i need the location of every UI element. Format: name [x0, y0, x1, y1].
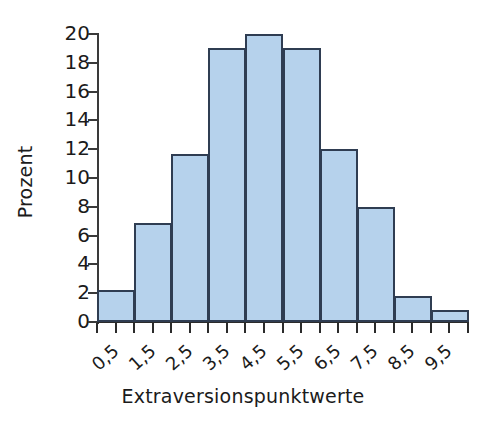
- x-tick-label: 5,5: [261, 341, 307, 385]
- y-tick-label: 10: [52, 167, 90, 187]
- y-tick-label: 16: [52, 81, 90, 101]
- x-tick-mark: [189, 323, 191, 333]
- x-tick-label: 7,5: [335, 341, 381, 385]
- histogram-bar: [431, 310, 469, 322]
- histogram-bar: [283, 48, 321, 322]
- histogram-bar: [320, 149, 358, 322]
- x-tick-label: 4,5: [224, 341, 270, 385]
- y-tick-mark: [88, 292, 97, 294]
- x-tick-mark: [448, 323, 450, 333]
- y-tick-mark: [88, 263, 97, 265]
- x-tick-mark: [115, 323, 117, 333]
- x-tick-mark: [226, 323, 228, 333]
- x-bin-edge-mark: [244, 323, 246, 333]
- y-tick-mark: [88, 119, 97, 121]
- x-bin-edge-mark: [356, 323, 358, 333]
- x-tick-label: 2,5: [150, 341, 196, 385]
- x-bin-edge-mark: [430, 323, 432, 333]
- x-tick-label: 0,5: [75, 341, 121, 385]
- x-tick-label: 6,5: [298, 341, 344, 385]
- y-tick-label: 18: [52, 52, 90, 72]
- histogram-bar: [97, 290, 135, 322]
- y-tick-label: 2: [52, 282, 90, 302]
- x-bin-edge-mark: [393, 323, 395, 333]
- histogram-bar: [245, 34, 283, 322]
- y-tick-mark: [88, 91, 97, 93]
- x-tick-label: 8,5: [372, 341, 418, 385]
- x-tick-mark: [337, 323, 339, 333]
- histogram-bar: [208, 48, 246, 322]
- y-tick-label: 0: [52, 311, 90, 331]
- histogram-bar: [134, 223, 172, 322]
- y-axis-title: Prozent: [14, 112, 40, 252]
- y-tick-mark: [88, 148, 97, 150]
- y-tick-mark: [88, 33, 97, 35]
- x-axis-title: Extraversionspunktwerte: [0, 385, 486, 407]
- x-tick-label: 3,5: [187, 341, 233, 385]
- x-bin-edge-mark: [319, 323, 321, 333]
- y-tick-label: 14: [52, 109, 90, 129]
- plot-area: [97, 34, 468, 322]
- y-tick-mark: [88, 62, 97, 64]
- y-tick-label: 8: [52, 196, 90, 216]
- x-tick-mark: [411, 323, 413, 333]
- y-tick-mark: [88, 206, 97, 208]
- y-tick-label: 20: [52, 23, 90, 43]
- x-bin-edge-mark: [207, 323, 209, 333]
- histogram-bar: [394, 296, 432, 322]
- y-tick-label: 4: [52, 253, 90, 273]
- y-axis-tick-labels: 02468101214161820: [52, 22, 90, 336]
- x-bin-edge-mark: [133, 323, 135, 333]
- x-tick-mark: [263, 323, 265, 333]
- histogram-bar: [171, 154, 209, 322]
- y-tick-label: 12: [52, 138, 90, 158]
- x-bin-edge-mark: [96, 323, 98, 333]
- x-tick-mark: [300, 323, 302, 333]
- x-bin-edge-mark: [467, 323, 469, 333]
- y-tick-label: 6: [52, 225, 90, 245]
- y-tick-mark: [88, 177, 97, 179]
- x-bin-edge-mark: [282, 323, 284, 333]
- histogram-bar: [357, 207, 395, 322]
- x-tick-label: 1,5: [112, 341, 158, 385]
- histogram-figure: Prozent 02468101214161820 Extraversionsp…: [0, 0, 486, 421]
- x-tick-label: 9,5: [409, 341, 455, 385]
- x-tick-mark: [374, 323, 376, 333]
- y-tick-mark: [88, 235, 97, 237]
- x-bin-edge-mark: [170, 323, 172, 333]
- x-tick-mark: [152, 323, 154, 333]
